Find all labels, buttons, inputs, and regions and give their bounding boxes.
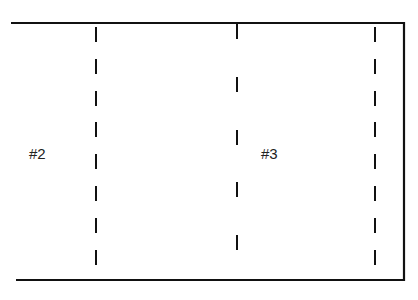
panel-2-label: #2 (29, 145, 46, 162)
panel-3-label: #3 (261, 145, 278, 162)
panel-diagram: #2 #3 (0, 0, 418, 300)
